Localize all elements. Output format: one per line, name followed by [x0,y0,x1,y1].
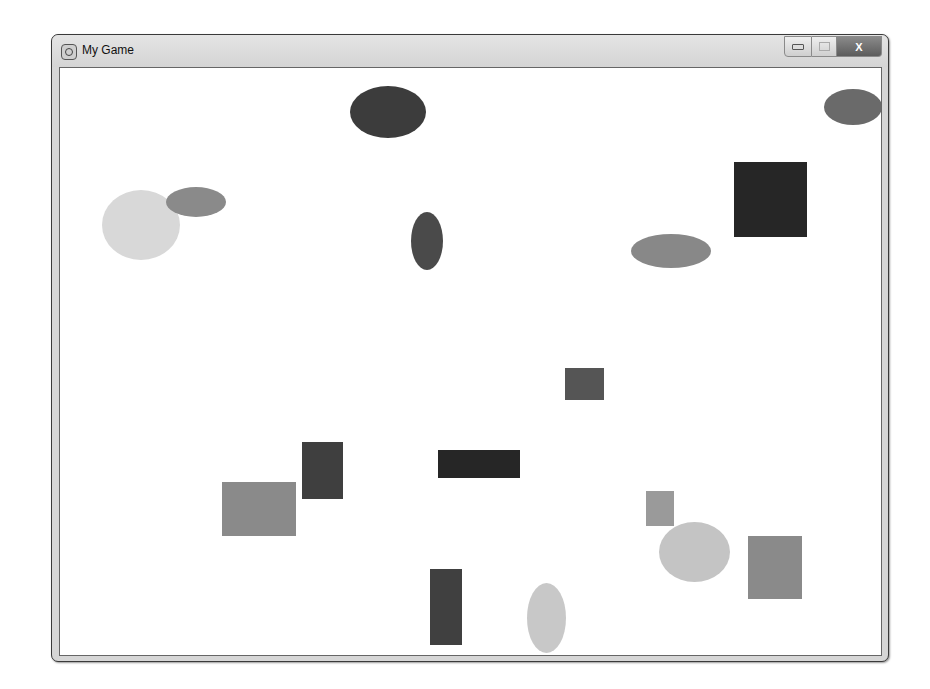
ellipse-sprite [166,187,226,217]
rect-sprite [222,482,296,536]
rect-sprite [646,491,674,526]
game-canvas[interactable] [59,67,882,656]
ellipse-sprite [411,212,443,270]
window-title: My Game [82,43,134,57]
rect-sprite [302,442,343,499]
minimize-button[interactable] [784,36,812,57]
ellipse-sprite [659,522,730,582]
ellipse-sprite [824,89,882,125]
close-icon: X [855,41,862,53]
rect-sprite [565,368,604,400]
window-controls: X [784,36,882,55]
rect-sprite [438,450,520,478]
maximize-icon [819,42,830,51]
game-window: My Game X [51,34,889,662]
rect-sprite [430,569,462,645]
ellipse-sprite [631,234,711,268]
ellipse-sprite [527,583,566,653]
minimize-icon [792,44,804,50]
title-bar[interactable]: My Game X [52,35,888,67]
maximize-button[interactable] [812,36,837,57]
app-icon[interactable] [61,44,77,60]
ellipse-sprite [350,86,426,138]
rect-sprite [748,536,802,599]
close-button[interactable]: X [837,36,882,57]
rect-sprite [734,162,807,237]
